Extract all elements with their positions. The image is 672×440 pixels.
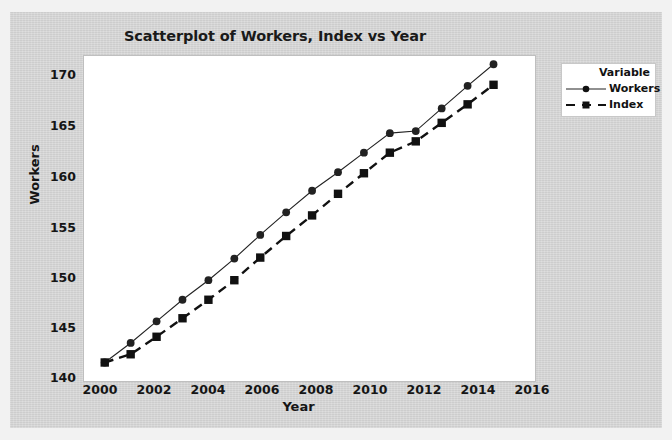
- data-point: [360, 149, 368, 157]
- plot-svg: [84, 56, 535, 381]
- data-point: [178, 314, 186, 322]
- y-tick-label-170: 170: [36, 67, 76, 82]
- legend-key-workers-icon: [565, 81, 607, 97]
- chart-card: Scatterplot of Workers, Index vs Year Wo…: [10, 12, 662, 428]
- plot-area: [83, 55, 536, 382]
- legend-label-workers: Workers: [609, 82, 660, 95]
- data-point: [126, 350, 134, 358]
- legend-row-workers[interactable]: Workers: [562, 81, 655, 97]
- data-point: [127, 339, 135, 347]
- x-tick-label-2002: 2002: [129, 382, 179, 397]
- y-tick-label-140: 140: [36, 370, 76, 385]
- legend-title: Variable: [599, 66, 650, 79]
- data-point: [334, 168, 342, 176]
- data-point: [360, 169, 368, 177]
- data-point: [230, 276, 238, 284]
- data-point: [230, 255, 238, 263]
- x-tick-label-2012: 2012: [399, 382, 449, 397]
- data-point: [205, 276, 213, 284]
- legend-key-index-icon: [565, 97, 607, 113]
- data-point: [334, 190, 342, 198]
- legend-label-index: Index: [609, 98, 643, 111]
- x-tick-label-2016: 2016: [507, 382, 557, 397]
- x-tick-label-2006: 2006: [237, 382, 287, 397]
- data-point: [412, 127, 420, 135]
- x-tick-label-2000: 2000: [75, 382, 125, 397]
- data-point: [153, 317, 161, 325]
- x-tick-label-2004: 2004: [183, 382, 233, 397]
- data-point: [438, 105, 446, 113]
- legend-row-index[interactable]: Index: [562, 97, 655, 113]
- data-point: [256, 231, 264, 239]
- data-point: [437, 119, 445, 127]
- y-tick-label-155: 155: [36, 220, 76, 235]
- chart-page: Scatterplot of Workers, Index vs Year Wo…: [0, 0, 672, 440]
- data-point: [489, 81, 497, 89]
- x-tick-label-2008: 2008: [291, 382, 341, 397]
- chart-legend: Variable Workers Index: [561, 63, 656, 117]
- data-point: [386, 129, 394, 137]
- data-point: [490, 60, 498, 68]
- data-point: [179, 296, 187, 304]
- y-tick-label-145: 145: [36, 320, 76, 335]
- data-point: [464, 82, 472, 90]
- series-index: [101, 81, 498, 367]
- data-point: [386, 148, 394, 156]
- series-workers: [101, 60, 498, 366]
- chart-title: Scatterplot of Workers, Index vs Year: [10, 28, 540, 44]
- data-point: [282, 208, 290, 216]
- x-tick-label-2010: 2010: [345, 382, 395, 397]
- y-tick-label-160: 160: [36, 169, 76, 184]
- data-point: [463, 100, 471, 108]
- data-point: [282, 232, 290, 240]
- y-tick-label-165: 165: [36, 118, 76, 133]
- data-point: [204, 296, 212, 304]
- data-point: [412, 137, 420, 145]
- x-axis-title: Year: [73, 399, 524, 414]
- data-point: [308, 211, 316, 219]
- data-point: [308, 187, 316, 195]
- y-tick-label-150: 150: [36, 270, 76, 285]
- data-point: [101, 358, 109, 366]
- data-point: [256, 253, 264, 261]
- data-point: [152, 333, 160, 341]
- x-tick-label-2014: 2014: [453, 382, 503, 397]
